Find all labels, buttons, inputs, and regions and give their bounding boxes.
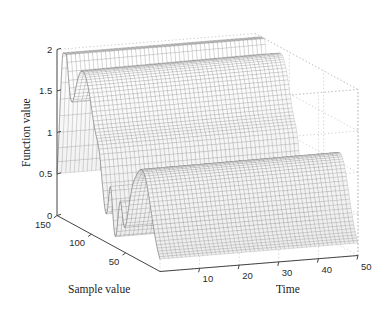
x-tick-label-100: 100	[69, 238, 85, 248]
x-tick-label-150: 150	[35, 220, 51, 230]
figure-3d-surface-plot: 0 0.5 1 1.5 2 150 100 50 10 20 30 40 50 …	[0, 0, 386, 318]
z-axis-title: Function value	[21, 98, 33, 167]
z-tick-label-1: 0.5	[39, 169, 52, 179]
y-tick-label-40: 40	[321, 265, 332, 275]
z-tick-label-4: 2	[47, 45, 52, 55]
x-tick-label-50: 50	[109, 257, 120, 267]
y-tick-label-10: 10	[203, 274, 214, 284]
z-tick-label-2: 1	[47, 128, 52, 138]
y-axis-title: Time	[276, 284, 300, 296]
x-axis-title: Sample value	[68, 284, 130, 296]
y-tick-label-20: 20	[242, 271, 253, 281]
y-tick-label-50: 50	[361, 262, 372, 272]
z-tick-label-3: 1.5	[39, 86, 52, 96]
y-tick-label-30: 30	[282, 268, 293, 278]
